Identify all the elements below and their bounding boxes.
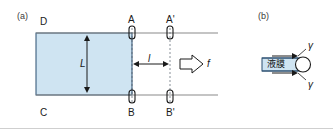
label-node-b: B <box>128 108 135 118</box>
label-gamma-bottom: γ <box>308 80 313 90</box>
label-force-f: f <box>207 59 210 69</box>
dimension-arrow-horizontal-l <box>133 61 169 67</box>
label-node-a: A <box>128 15 135 25</box>
label-node-b-prime: B' <box>166 108 175 118</box>
panel-b-tag: (b) <box>258 12 269 21</box>
label-dimension-l: l <box>148 54 150 64</box>
bottom-divider <box>0 128 333 129</box>
wire-cross-section-circle <box>296 57 311 72</box>
label-liquid-film: 液膜 <box>267 60 285 69</box>
label-node-d: D <box>40 17 47 27</box>
force-block-arrow <box>180 55 203 73</box>
label-node-c: C <box>40 108 47 118</box>
label-gamma-top: γ <box>308 41 313 51</box>
label-node-a-prime: A' <box>166 15 175 25</box>
label-dimension-L: L <box>80 59 86 69</box>
figure-container: (a) D C A B A' B' L l f (b) 液膜 γ γ <box>0 0 333 129</box>
panel-a-tag: (a) <box>17 12 28 21</box>
